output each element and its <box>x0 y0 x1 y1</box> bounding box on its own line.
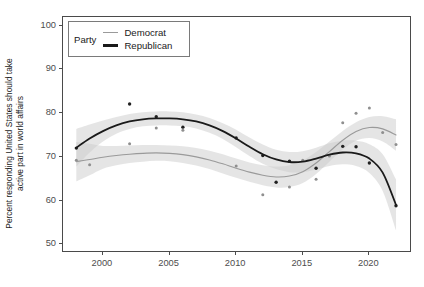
x-tick-label: 2005 <box>149 258 189 268</box>
x-tick-mark <box>235 252 236 255</box>
legend-item-democrat[interactable]: Democrat <box>102 27 172 38</box>
y-axis-title: Percent responding United States should … <box>0 0 30 287</box>
data-point-democrat <box>368 106 371 109</box>
legend-entries: DemocratRepublican <box>102 27 172 51</box>
y-axis-title-line2: active part in world affairs <box>15 58 27 228</box>
legend-line-icon <box>102 28 119 38</box>
data-point-republican <box>354 145 357 148</box>
legend-item-republican[interactable]: Republican <box>102 40 172 51</box>
data-point-republican <box>128 102 131 105</box>
y-tick-label: 90 <box>30 63 56 73</box>
data-point-republican <box>314 167 317 170</box>
data-point-republican <box>341 145 344 148</box>
data-point-democrat <box>341 121 344 124</box>
y-tick-label: 50 <box>30 238 56 248</box>
legend-label: Republican <box>124 40 172 51</box>
data-point-democrat <box>395 143 398 146</box>
y-tick-label: 60 <box>30 195 56 205</box>
x-tick-label: 2015 <box>282 258 322 268</box>
data-point-democrat <box>88 163 91 166</box>
y-axis-title-line1: Percent responding United States should … <box>4 58 16 228</box>
y-tick-label: 70 <box>30 151 56 161</box>
legend-line-icon <box>102 41 119 51</box>
x-tick-label: 2020 <box>348 258 388 268</box>
legend-title: Party <box>74 34 96 45</box>
data-point-democrat <box>155 127 158 130</box>
data-point-democrat <box>261 193 264 196</box>
data-point-democrat <box>128 142 131 145</box>
chart-container: Percent responding United States should … <box>0 0 424 287</box>
data-point-democrat <box>381 131 384 134</box>
data-point-democrat <box>235 165 238 168</box>
x-tick-mark <box>169 252 170 255</box>
x-tick-mark <box>102 252 103 255</box>
data-point-democrat <box>315 178 318 181</box>
data-point-democrat <box>355 112 358 115</box>
x-tick-mark <box>302 252 303 255</box>
legend-label: Democrat <box>124 27 166 38</box>
y-tick-label: 100 <box>30 20 56 30</box>
legend: Party DemocratRepublican <box>68 21 190 57</box>
data-point-democrat <box>181 129 184 132</box>
y-tick-label: 80 <box>30 107 56 117</box>
data-point-republican <box>181 125 184 128</box>
x-tick-label: 2000 <box>82 258 122 268</box>
data-point-republican <box>368 161 371 164</box>
data-point-republican <box>274 181 277 184</box>
x-tick-mark <box>368 252 369 255</box>
x-tick-label: 2010 <box>215 258 255 268</box>
data-point-democrat <box>288 186 291 189</box>
